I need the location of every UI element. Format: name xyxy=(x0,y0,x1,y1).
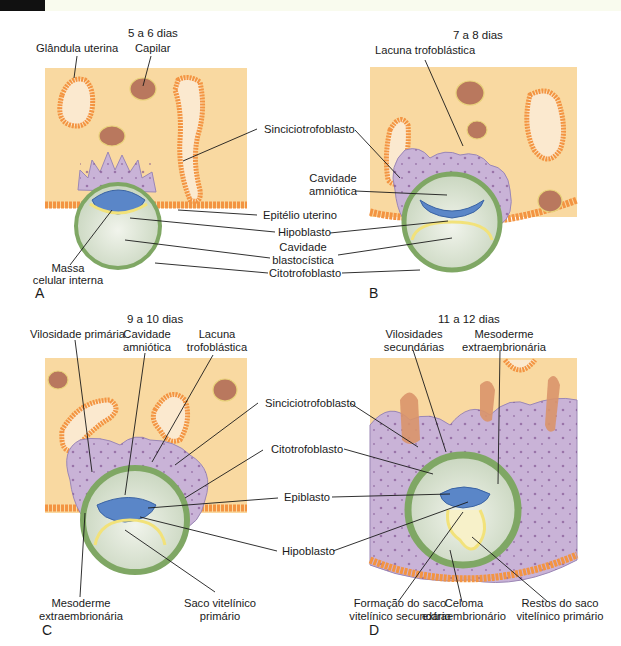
label-hipoblasto-bottom: Hipoblasto xyxy=(282,545,335,558)
label-citotrofoblasto-top: Citotrofoblasto xyxy=(269,267,341,280)
label-vilosidade-primaria: Vilosidade primária xyxy=(30,328,125,341)
panel-c xyxy=(45,358,247,572)
label-epitelio-uterino: Epitélio uterino xyxy=(263,209,337,222)
label-vilosidades-1: Vilosidades xyxy=(380,328,448,341)
panel-d xyxy=(370,358,577,583)
label-cavidade-amniotica-2: amniótica xyxy=(300,185,366,198)
label-lacuna-trofoblastica-b: Lacuna trofoblástica xyxy=(375,44,475,57)
capillary-b2 xyxy=(467,121,487,139)
panel-letter-a: A xyxy=(35,285,44,301)
label-saco-vitelinico-1: Saco vitelínico xyxy=(180,597,260,610)
panel-a xyxy=(45,68,247,268)
label-citotrofoblasto-bottom: Citotrofoblasto xyxy=(271,443,343,456)
secondary-villus-d1 xyxy=(400,393,420,445)
panel-b xyxy=(370,67,577,270)
label-mesoderme-d-1: Mesoderme xyxy=(458,328,550,341)
label-cavidade-amniotica-c-1: Cavidade xyxy=(122,328,172,341)
label-vilosidades-2: secundárias xyxy=(380,341,448,354)
capillary-c2 xyxy=(213,379,237,401)
label-lacuna-c-1: Lacuna xyxy=(184,328,250,341)
label-cavidade-amniotica-c-2: amniótica xyxy=(122,341,172,354)
capillary-c1 xyxy=(48,371,68,389)
label-restos-2: vitelínico primário xyxy=(514,610,606,623)
label-celoma-1: Celoma xyxy=(418,597,510,610)
label-saco-vitelinico-2: primário xyxy=(180,610,260,623)
panel-letter-d: D xyxy=(369,622,379,638)
label-epiblasto: Epiblasto xyxy=(284,491,330,504)
label-lacuna-c-2: trofoblástica xyxy=(184,341,250,354)
label-sinciciotrofoblasto-top: Sinciciotrofoblasto xyxy=(264,123,355,136)
label-hipoblasto-top: Hipoblasto xyxy=(278,226,331,239)
label-mesoderme-c-1: Mesoderme xyxy=(36,597,126,610)
capillary-a1 xyxy=(130,78,156,100)
panel-letter-c: C xyxy=(42,622,52,638)
stage-label-b: 7 a 8 dias xyxy=(453,29,503,41)
stage-label-a: 5 a 6 dias xyxy=(128,27,178,39)
capillary-a2 xyxy=(99,126,125,146)
label-cavidade-amniotica-1: Cavidade xyxy=(300,172,366,185)
label-restos-1: Restos do saco xyxy=(514,597,606,610)
label-sinciciotrofoblasto-bottom: Sinciciotrofoblasto xyxy=(265,397,356,410)
label-glandula-uterina: Glândula uterina xyxy=(36,42,118,55)
capillary-b3 xyxy=(538,190,562,212)
capillary-b1 xyxy=(456,81,484,105)
label-mesoderme-d-2: extraembrionária xyxy=(458,341,550,354)
uterine-gland-b2 xyxy=(527,91,564,159)
label-cavidade-blastocistica-2: blastocística xyxy=(268,254,338,267)
label-capilar: Capilar xyxy=(135,42,170,55)
stage-label-c: 9 a 10 dias xyxy=(127,313,183,325)
panel-letter-b: B xyxy=(369,285,378,301)
stage-label-d: 11 a 12 dias xyxy=(438,313,500,325)
label-cavidade-blastocistica-1: Cavidade xyxy=(268,241,338,254)
label-celoma-2: extraembrionário xyxy=(418,610,510,623)
